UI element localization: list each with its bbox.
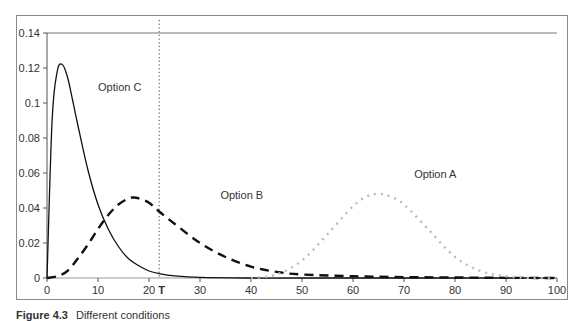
x-tick-label: 90 <box>500 284 512 296</box>
x-tick-label: 0 <box>44 284 50 296</box>
x-tick-label: 100 <box>548 284 566 296</box>
label-option-a: Option A <box>414 168 457 180</box>
x-tick-label: 20 <box>143 284 155 296</box>
series-option-a <box>251 194 557 278</box>
x-tick-label: 10 <box>92 284 104 296</box>
x-tick-label: 30 <box>194 284 206 296</box>
y-tick-label: 0.14 <box>19 27 40 39</box>
y-tick-label: 0.12 <box>19 62 40 74</box>
x-tick-label: 50 <box>296 284 308 296</box>
figure-caption: Figure 4.3Different conditions <box>16 309 170 321</box>
x-tick-label: 70 <box>398 284 410 296</box>
x-tick-label: 60 <box>347 284 359 296</box>
series-option-c <box>47 64 557 278</box>
caption-label: Figure 4.3 <box>16 309 68 321</box>
label-option-b: Option B <box>220 189 263 201</box>
x-tick-label: 80 <box>449 284 461 296</box>
y-tick-label: 0.08 <box>19 132 40 144</box>
y-tick-label: 0.1 <box>25 97 40 109</box>
series-option-b <box>47 197 557 278</box>
caption-text: Different conditions <box>76 309 170 321</box>
y-tick-label: 0 <box>34 272 40 284</box>
y-tick-label: 0.02 <box>19 237 40 249</box>
y-tick-label: 0.04 <box>19 202 40 214</box>
y-tick-label: 0.06 <box>19 167 40 179</box>
label-option-c: Option C <box>98 81 141 93</box>
threshold-t-label: T <box>158 284 165 296</box>
x-tick-label: 40 <box>245 284 257 296</box>
